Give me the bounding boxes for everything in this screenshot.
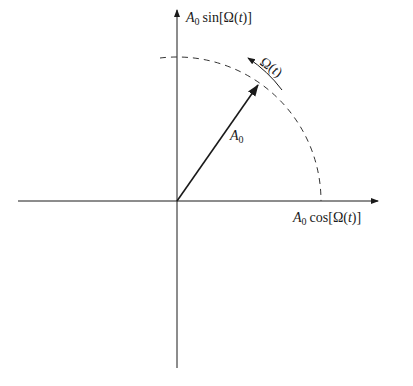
dashed-circle-arc — [160, 57, 321, 201]
vector-label: A0 — [229, 128, 244, 145]
phasor-diagram: A0sin[Ω(t)] A0cos[Ω(t)] A0 Ω(t) — [0, 0, 413, 386]
phasor-vector — [177, 85, 258, 201]
y-axis-label: A0sin[Ω(t)] — [185, 10, 252, 27]
x-axis-label: A0cos[Ω(t)] — [292, 210, 361, 227]
